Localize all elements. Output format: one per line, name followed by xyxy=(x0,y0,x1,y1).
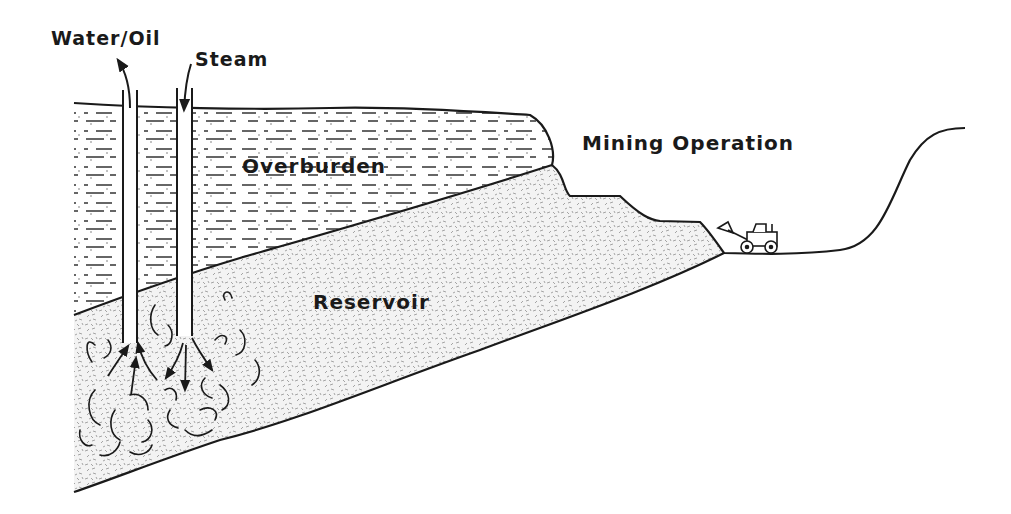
production-well xyxy=(123,90,137,343)
reservoir-label: Reservoir xyxy=(313,290,430,314)
overburden-label: Overburden xyxy=(242,154,386,178)
injection-well xyxy=(177,88,192,336)
mining-operation-label: Mining Operation xyxy=(582,131,794,155)
water-oil-label: Water/Oil xyxy=(51,27,161,49)
oil-sand-diagram xyxy=(0,0,1011,514)
steam-label: Steam xyxy=(195,48,268,70)
front-end-loader-icon xyxy=(718,222,777,253)
